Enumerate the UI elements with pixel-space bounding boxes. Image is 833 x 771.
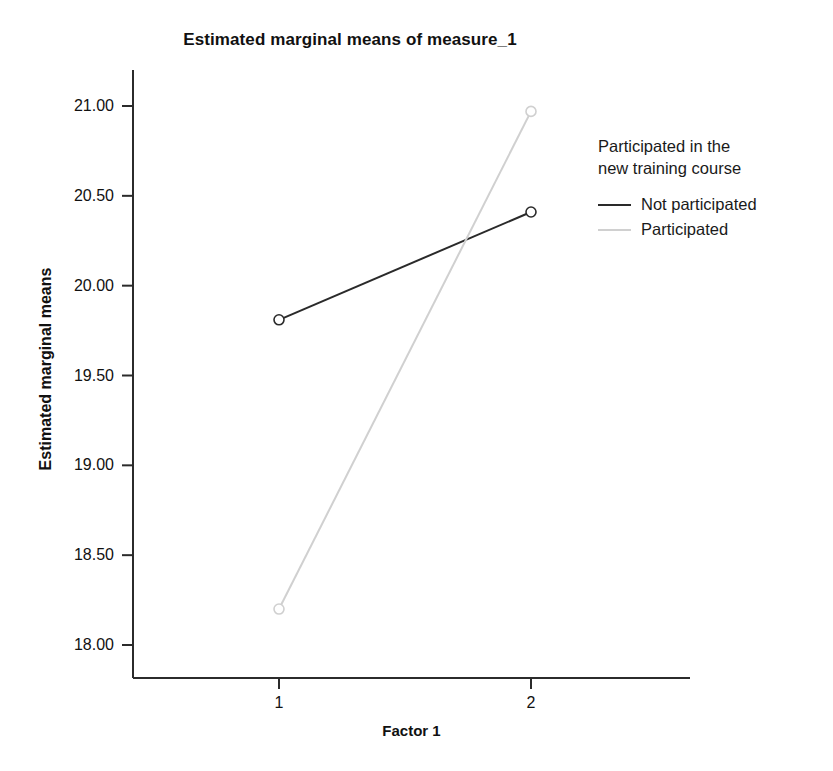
y-axis-tick-label: 18.50: [28, 546, 114, 564]
legend-item[interactable]: Not participated: [598, 192, 828, 217]
data-point-marker: [526, 106, 536, 116]
x-axis-tick-label: 1: [249, 694, 309, 712]
legend-title: Participated in the new training course: [598, 136, 828, 180]
y-axis-tick-label: 20.00: [28, 277, 114, 295]
chart-page: Estimated marginal means of measure_1 Es…: [0, 0, 833, 771]
data-point-marker: [274, 315, 284, 325]
data-point-marker: [274, 604, 284, 614]
x-axis-ticks: [279, 678, 531, 689]
y-axis-tick-label: 18.00: [28, 636, 114, 654]
plot-area: [0, 0, 833, 771]
series-line: [279, 111, 531, 609]
y-axis-tick-label: 20.50: [28, 187, 114, 205]
y-axis-tick-label: 19.00: [28, 456, 114, 474]
data-point-marker: [526, 207, 536, 217]
legend-item[interactable]: Participated: [598, 217, 828, 242]
y-axis-ticks: [122, 106, 133, 645]
legend-line-swatch: [598, 198, 631, 210]
series-lines: [279, 111, 531, 609]
legend-item-label: Not participated: [641, 195, 757, 214]
legend-line-swatch: [598, 223, 631, 235]
y-axis-tick-label: 21.00: [28, 97, 114, 115]
legend-items: Not participatedParticipated: [598, 192, 828, 242]
y-axis-tick-label: 19.50: [28, 367, 114, 385]
series-line: [279, 212, 531, 320]
chart-legend: Participated in the new training course …: [598, 136, 828, 242]
legend-item-label: Participated: [641, 220, 728, 239]
x-axis-tick-label: 2: [501, 694, 561, 712]
